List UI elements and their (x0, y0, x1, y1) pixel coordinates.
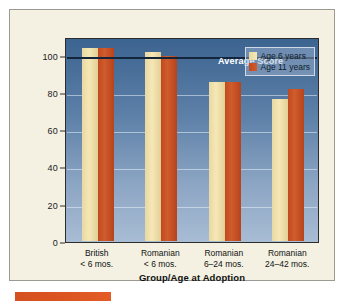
bar (225, 82, 241, 241)
figure: 020406080100 Mean Intelligence Test Scor… (0, 0, 344, 308)
y-axis-tick-label: 20 (48, 201, 58, 211)
bar (209, 82, 225, 241)
x-axis-categories: British< 6 mos.Romanian< 6 mos.Romanian6… (65, 246, 319, 272)
chart-panel: 020406080100 Mean Intelligence Test Scor… (9, 9, 335, 281)
x-axis-category-line: < 6 mos. (65, 259, 129, 270)
x-axis-category-line: British (65, 248, 129, 259)
x-axis-category-label: Romanian< 6 mos. (129, 248, 193, 270)
bar (288, 89, 304, 241)
caption-accent-bar (15, 292, 111, 301)
y-axis-tick-label: 80 (48, 89, 58, 99)
legend-label: Age 6 years (261, 51, 306, 61)
legend-item: Age 11 years (249, 61, 310, 72)
y-axis-tick-label: 100 (42, 52, 58, 62)
bar-group (272, 89, 304, 241)
bar-group (209, 82, 241, 241)
y-axis: 020406080100 (10, 38, 65, 243)
bar-group (145, 52, 177, 241)
bar (82, 48, 98, 241)
y-axis-tick-label: 0 (53, 238, 58, 248)
x-axis-category-line: 6–24 mos. (192, 259, 256, 270)
legend-swatch-age-11-icon (249, 63, 257, 71)
x-axis-title: Group/Age at Adoption (65, 272, 319, 283)
y-axis-title: Mean Intelligence Test Score (5, 0, 19, 38)
x-axis-category-line: Romanian (256, 248, 320, 259)
x-axis-category-line: 24–42 mos. (256, 259, 320, 270)
legend-swatch-age-6-icon (249, 52, 257, 60)
x-axis-category-line: Romanian (129, 248, 193, 259)
legend-label: Age 11 years (261, 62, 310, 72)
bar-group (82, 48, 114, 241)
plot-area: Average Score Age 6 years Age 11 years (65, 38, 319, 243)
legend-item: Age 6 years (249, 50, 310, 61)
x-axis-category-label: Romanian6–24 mos. (192, 248, 256, 270)
y-axis-tick-label: 40 (48, 163, 58, 173)
bar (98, 48, 114, 241)
bar (161, 56, 177, 241)
x-axis-category-label: Romanian24–42 mos. (256, 248, 320, 270)
bar (145, 52, 161, 241)
x-axis-category-label: British< 6 mos. (65, 248, 129, 270)
x-axis-category-line: < 6 mos. (129, 259, 193, 270)
legend: Age 6 years Age 11 years (245, 47, 315, 76)
bar (272, 99, 288, 242)
x-axis-category-line: Romanian (192, 248, 256, 259)
y-axis-tick-label: 60 (48, 126, 58, 136)
